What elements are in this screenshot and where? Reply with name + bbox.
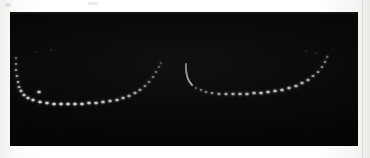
fringe-dot	[287, 87, 291, 90]
fringe-dot	[121, 97, 124, 99]
fringe-dot	[16, 75, 19, 77]
series-right-arc	[195, 56, 328, 95]
fringe-dot	[321, 66, 324, 68]
fringe-dot	[94, 102, 98, 105]
fringe-dot	[315, 52, 317, 53]
fringe-dot	[327, 55, 329, 56]
fringe-dot	[19, 90, 22, 92]
fringe-dot	[144, 85, 147, 87]
fringe-dot	[155, 71, 158, 73]
fringe-dot	[38, 101, 42, 104]
scan-speck-top-left	[5, 3, 11, 7]
fringe-dot	[238, 93, 242, 96]
fringe-dot	[305, 50, 307, 51]
fringe-dot	[73, 103, 77, 106]
fringe-dot	[138, 89, 141, 91]
arc-stroke	[186, 64, 192, 85]
scan-speck-top-center	[88, 2, 98, 5]
fringe-dot	[195, 87, 197, 89]
fringe-dot	[59, 103, 63, 106]
fringe-dot	[205, 91, 208, 93]
fringe-dot	[324, 61, 326, 63]
fringe-dot	[148, 81, 151, 83]
fringe-dot	[317, 71, 320, 73]
scan-edge-line	[362, 0, 363, 158]
fringe-dot	[108, 100, 112, 103]
fringe-dot	[37, 91, 40, 94]
fringe-dot	[311, 75, 314, 77]
series-faint-specks	[35, 49, 329, 56]
fringe-dot	[266, 91, 270, 94]
fringe-dot	[158, 66, 160, 68]
fringe-dot	[160, 62, 162, 64]
fringe-dot	[300, 82, 303, 84]
fringe-dot	[87, 102, 91, 105]
fringe-dot	[211, 92, 214, 94]
dark-image-panel	[10, 12, 358, 146]
figure-root: Dotted double-arc fringe pattern	[0, 0, 370, 158]
fringe-dot	[31, 99, 34, 102]
fringe-dot	[26, 97, 29, 99]
fringe-dot	[245, 93, 249, 96]
fringe-dot	[50, 49, 52, 50]
fringe-dot	[252, 92, 256, 95]
fringe-dot	[15, 57, 17, 59]
fringe-dot	[115, 99, 118, 102]
fringe-pattern-svg	[10, 12, 358, 146]
fringe-dot	[231, 93, 234, 95]
fringe-dot	[294, 85, 297, 88]
fringe-dot	[133, 92, 136, 94]
fringe-dot	[152, 76, 155, 78]
fringe-dot	[273, 90, 277, 93]
fringe-dot	[259, 92, 263, 95]
fringe-dot	[15, 69, 18, 71]
fringe-dot	[280, 89, 284, 92]
fringe-dot	[52, 103, 56, 106]
fringe-plot-area	[10, 12, 358, 146]
fringe-dot	[127, 95, 130, 97]
series-right-arc-head	[186, 64, 192, 85]
fringe-dot	[22, 94, 25, 96]
fringe-dot	[200, 89, 203, 91]
fringe-dot	[18, 86, 21, 88]
fringe-dot	[35, 51, 37, 52]
fringe-dot	[306, 79, 309, 81]
fringe-dot	[217, 93, 220, 95]
fringe-dot	[80, 103, 84, 106]
fringe-dot	[15, 63, 17, 65]
fringe-dot	[101, 101, 105, 104]
fringe-dot	[45, 102, 49, 105]
fringe-dot	[224, 93, 227, 95]
fringe-dot	[66, 103, 70, 106]
series-left-arc	[15, 57, 162, 105]
fringe-dot	[17, 81, 20, 83]
